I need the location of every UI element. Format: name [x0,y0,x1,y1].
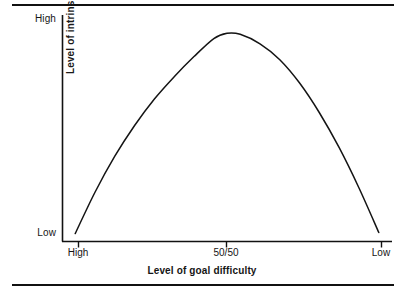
motivation-curve [75,33,379,234]
x-axis-tick-label-low: Low [359,247,403,258]
figure-root: High Low Level of intrinsic motivation H… [0,0,404,296]
y-axis-tick-label-low: Low [26,227,56,238]
x-axis-title: Level of goal difficulty [0,265,404,276]
bottom-rule [12,284,394,286]
x-axis-tick-label-fifty-fifty: 50/50 [201,247,251,258]
y-axis-tick-label-high: High [26,13,56,24]
y-axis-title: Level of intrinsic motivation [65,0,76,76]
x-axis-tick-label-high: High [56,247,100,258]
